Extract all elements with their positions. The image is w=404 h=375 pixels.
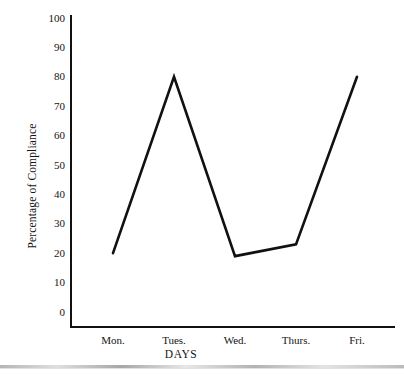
x-axis-title: DAYS [0, 348, 404, 360]
data-series-line [113, 77, 357, 256]
x-axis-title-text: DAYS [165, 348, 197, 360]
plot-area [0, 0, 404, 375]
scan-artifact-line-secondary [0, 368, 404, 369]
line-chart-figure: Percentage of Compliance 100908070605040… [0, 0, 404, 375]
x-tick-label: Fri. [317, 333, 397, 347]
